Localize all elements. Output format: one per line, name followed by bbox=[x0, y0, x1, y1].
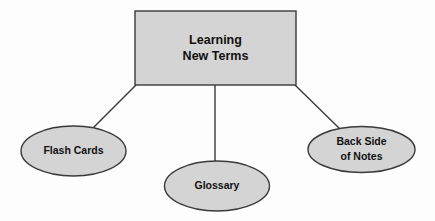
connector-root-to-flash-cards bbox=[89, 85, 136, 132]
branch-label-back-side-of-notes-line2: of Notes bbox=[341, 150, 383, 162]
root-node-label-line1: Learning bbox=[189, 33, 242, 47]
branch-label-back-side-of-notes-line1: Back Side bbox=[336, 135, 386, 147]
connector-root-to-back-side-of-notes bbox=[295, 85, 341, 130]
root-node-label-line2: New Terms bbox=[183, 49, 249, 63]
root-node-rectangle[interactable] bbox=[135, 11, 296, 85]
concept-map-diagram: Learning New Terms Flash Cards Glossary … bbox=[0, 0, 435, 221]
branch-label-flash-cards-line1: Flash Cards bbox=[43, 144, 103, 156]
branch-label-glossary-line1: Glossary bbox=[195, 179, 240, 191]
diagram-canvas: Learning New Terms Flash Cards Glossary … bbox=[0, 0, 435, 221]
